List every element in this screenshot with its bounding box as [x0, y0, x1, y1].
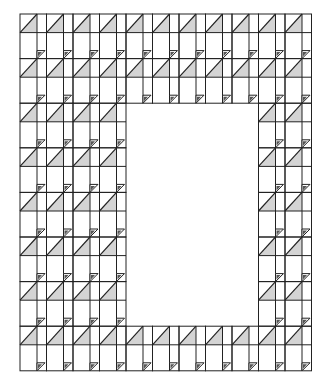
quilt-pattern-diagram: [0, 0, 328, 391]
